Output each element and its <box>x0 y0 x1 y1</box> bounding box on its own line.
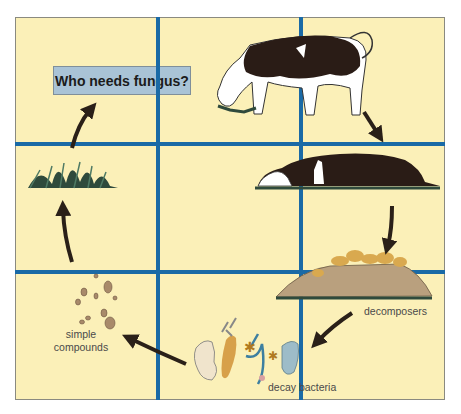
arrow-bacteria-to-compounds-icon <box>131 339 186 364</box>
dead-cow-icon <box>255 154 440 188</box>
title-box: Who needs fungus? <box>53 66 191 95</box>
arrow-decomposers-to-bacteria-icon <box>318 313 352 341</box>
arrow-dead-to-decomposers-icon <box>388 206 392 245</box>
grass-tuft-icon <box>28 162 118 188</box>
decay-bacteria-icon: ✱ ✱ <box>194 318 298 384</box>
arrow-cow-to-dead-icon <box>364 112 378 134</box>
title-text: Who needs fungus? <box>55 73 189 89</box>
simple-compounds-icon <box>76 274 118 329</box>
arrow-compounds-to-grass-icon <box>63 210 72 262</box>
mushroom-mound-icon <box>276 250 432 298</box>
decay-bacteria-label: decay bacteria <box>268 381 336 394</box>
decomposers-label: decomposers <box>364 305 427 318</box>
arrow-grass-to-title-icon <box>72 110 90 148</box>
simple-compounds-label-line1: simple <box>50 328 112 341</box>
grazing-cow-icon <box>217 32 372 115</box>
simple-compounds-label: simple compounds <box>50 328 112 354</box>
grid-line-over-title <box>156 66 160 95</box>
svg-text:✱: ✱ <box>244 339 256 355</box>
simple-compounds-label-line2: compounds <box>50 341 112 354</box>
svg-text:✱: ✱ <box>268 349 278 363</box>
